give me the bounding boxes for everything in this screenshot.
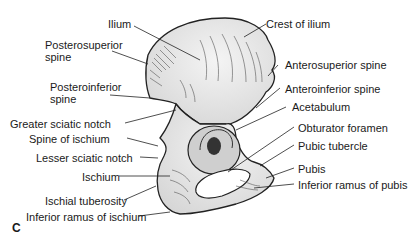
hip-bone-figure: Ilium Crest of ilium Posterosuperior spi… xyxy=(0,0,413,248)
label-anteroinferior-spine: Anteroinferior spine xyxy=(285,83,380,95)
ilium-shape xyxy=(146,18,275,124)
label-pubis: Pubis xyxy=(298,163,326,175)
label-inferior-ramus-of-pubis: Inferior ramus of pubis xyxy=(298,179,407,191)
label-spine-of-ischium: Spine of ischium xyxy=(29,133,110,145)
label-ischial-tuberosity: Ischial tuberosity xyxy=(45,195,127,207)
label-posteroinferior-spine-line1: Posteroinferior xyxy=(50,81,122,93)
label-ischium: Ischium xyxy=(82,171,120,183)
panel-label: C xyxy=(12,221,21,235)
label-posteroinferior-spine-line2: spine xyxy=(50,93,76,105)
label-inferior-ramus-of-ischium: Inferior ramus of ischium xyxy=(26,211,146,223)
label-crest-of-ilium: Crest of ilium xyxy=(266,18,330,30)
label-posterosuperior-spine-line2: spine xyxy=(45,51,71,63)
label-anterosuperior-spine: Anterosuperior spine xyxy=(285,59,387,71)
label-posterosuperior-spine-line1: Posterosuperior xyxy=(45,39,123,51)
label-pubic-tubercle: Pubic tubercle xyxy=(298,140,368,152)
label-acetabulum: Acetabulum xyxy=(292,101,350,113)
label-obturator-foramen: Obturator foramen xyxy=(298,122,388,134)
label-greater-sciatic-notch: Greater sciatic notch xyxy=(10,118,111,130)
label-lesser-sciatic-notch: Lesser sciatic notch xyxy=(36,152,133,164)
label-ilium: Ilium xyxy=(108,18,131,30)
